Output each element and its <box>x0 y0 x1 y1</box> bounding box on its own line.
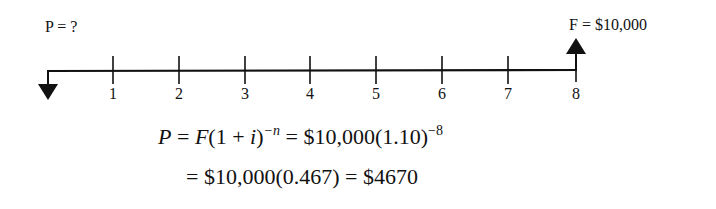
eq-p: P <box>158 124 171 149</box>
equation-line-1: P = F(1 + i)−n = $10,000(1.10)−8 <box>158 124 443 150</box>
period-label: 4 <box>300 85 320 103</box>
period-label: 3 <box>235 85 255 103</box>
equation-line-2: = $10,000(0.467) = $4670 <box>186 164 418 190</box>
period-label: 7 <box>498 85 518 103</box>
period-label: 2 <box>169 85 189 103</box>
period-label: 8 <box>566 85 586 103</box>
period-label: 5 <box>366 85 386 103</box>
period-label: 1 <box>103 85 123 103</box>
period-label: 6 <box>432 85 452 103</box>
